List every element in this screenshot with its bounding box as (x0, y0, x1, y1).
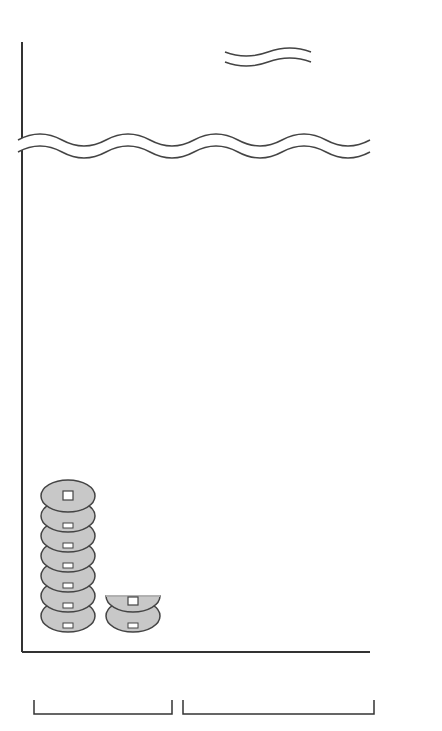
bar-834 (106, 596, 160, 632)
coin-stack-chart (0, 0, 442, 731)
dynasty-brackets (34, 700, 374, 714)
bar-752 (41, 480, 95, 632)
axis-break-top (225, 48, 311, 66)
axis-break-main (18, 134, 370, 158)
